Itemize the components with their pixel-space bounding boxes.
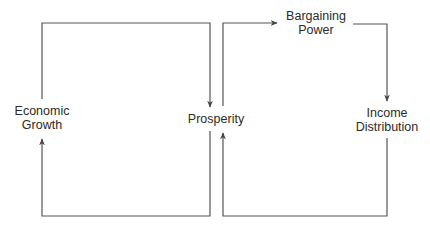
node-bargaining-power: Bargaining Power [276,9,356,37]
node-prosperity-label: Prosperity [176,112,256,126]
edge-growth-to-prosperity [42,23,210,107]
node-bargaining-power-line1: Bargaining [276,9,356,23]
node-economic-growth-line2: Growth [2,118,82,132]
edge-bargaining-to-income [353,24,387,101]
edge-prosperity-to-growth [42,131,210,216]
edge-prosperity-to-bargaining [223,23,277,106]
node-income-distribution: Income Distribution [347,106,427,134]
node-bargaining-power-line2: Power [276,23,356,37]
node-economic-growth-line1: Economic [2,104,82,118]
node-income-distribution-line1: Income [347,106,427,120]
node-income-distribution-line2: Distribution [347,120,427,134]
edge-income-to-prosperity [223,133,387,216]
node-economic-growth: Economic Growth [2,104,82,132]
node-prosperity: Prosperity [176,112,256,126]
